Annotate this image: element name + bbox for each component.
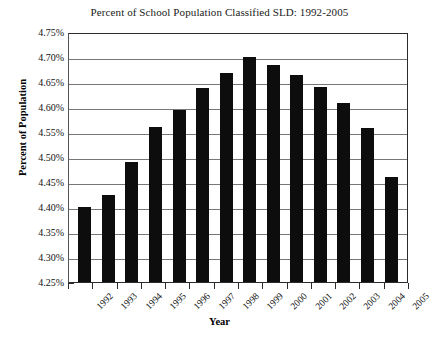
- x-axis-title: Year: [0, 316, 439, 327]
- bar: [78, 207, 91, 282]
- bar: [173, 110, 186, 282]
- x-axis-tick-label: 1993: [119, 291, 140, 312]
- x-axis-tick-label: 2000: [289, 291, 310, 312]
- x-axis-tick-label: 1992: [95, 291, 116, 312]
- y-axis-tick-marks: [16, 33, 76, 283]
- x-axis-tick-label: 1998: [241, 291, 262, 312]
- x-axis-tick-label: 1999: [265, 291, 286, 312]
- x-axis-tick-label: 2004: [387, 291, 408, 312]
- x-axis-tick-label: 2001: [314, 291, 335, 312]
- bar: [290, 75, 303, 282]
- x-axis-tick-label: 2003: [362, 291, 383, 312]
- chart-figure: Percent of School Population Classified …: [0, 0, 439, 340]
- plot-area: [68, 33, 408, 283]
- bar: [385, 177, 398, 282]
- bar: [314, 87, 327, 282]
- bar: [102, 195, 115, 282]
- bar: [267, 65, 280, 282]
- x-axis-tick-label: 2002: [338, 291, 359, 312]
- x-axis-tick-label: 1994: [144, 291, 165, 312]
- bar-series: [69, 34, 407, 282]
- bar: [196, 88, 209, 282]
- bar: [125, 162, 138, 282]
- bar: [337, 103, 350, 282]
- x-axis-tick-label: 1995: [168, 291, 189, 312]
- x-axis-tick-label: 2005: [411, 291, 432, 312]
- bar: [243, 57, 256, 282]
- x-axis-tick-mark: [408, 283, 409, 289]
- x-axis-tick-label: 1997: [217, 291, 238, 312]
- bar: [220, 73, 233, 282]
- x-axis-tick-label: 1996: [192, 291, 213, 312]
- bar: [149, 127, 162, 282]
- bar: [361, 128, 374, 282]
- chart-title: Percent of School Population Classified …: [0, 6, 439, 18]
